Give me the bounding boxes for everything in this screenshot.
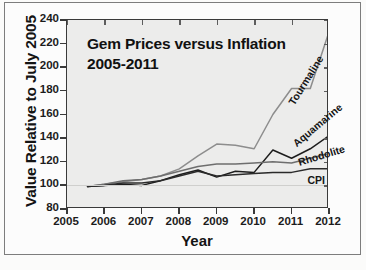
top-inner-tick xyxy=(67,20,68,25)
chart-title: Gem Prices versus Inflation 2005-2011 xyxy=(87,34,286,74)
top-inner-tick xyxy=(292,20,293,25)
top-inner-tick xyxy=(142,20,143,25)
chart-title-line1: Gem Prices versus Inflation xyxy=(87,34,286,54)
y-tick-label: 100 xyxy=(29,177,59,189)
right-inner-tick xyxy=(324,67,327,68)
y-tick-label: 120 xyxy=(29,154,59,166)
x-tick-mark xyxy=(103,208,105,214)
reference-line-100 xyxy=(67,185,327,186)
y-tick-label: 240 xyxy=(29,12,59,24)
x-tick-mark xyxy=(141,208,143,214)
top-inner-tick xyxy=(254,20,255,25)
x-tick-mark xyxy=(216,208,218,214)
chart-title-line2: 2005-2011 xyxy=(87,54,286,74)
x-tick-label: 2010 xyxy=(233,215,273,227)
right-inner-tick xyxy=(324,44,327,45)
x-tick-mark xyxy=(66,208,68,214)
y-tick-label: 200 xyxy=(29,59,59,71)
right-inner-tick xyxy=(324,162,327,163)
x-tick-label: 2009 xyxy=(196,215,236,227)
top-inner-tick xyxy=(104,20,105,25)
x-axis-title: Year xyxy=(66,232,328,249)
series-label-cpi: CPI xyxy=(307,174,325,186)
top-inner-tick xyxy=(179,20,180,25)
x-tick-label: 2006 xyxy=(83,215,123,227)
right-inner-tick xyxy=(324,138,327,139)
top-inner-tick xyxy=(217,20,218,25)
x-tick-mark xyxy=(178,208,180,214)
x-tick-label: 2008 xyxy=(158,215,198,227)
y-tick-label: 160 xyxy=(29,107,59,119)
plot-area: Gem Prices versus Inflation 2005-2011 xyxy=(66,19,328,208)
x-tick-mark xyxy=(291,208,293,214)
right-inner-tick xyxy=(324,91,327,92)
figure-page: Value Relative to July 2005 Year 8010012… xyxy=(0,0,366,270)
x-tick-label: 2011 xyxy=(271,215,311,227)
y-tick-label: 180 xyxy=(29,83,59,95)
series-line-aquamarine xyxy=(88,136,327,187)
y-tick-label: 80 xyxy=(29,201,59,213)
right-inner-tick xyxy=(324,20,327,21)
x-tick-label: 2012 xyxy=(308,215,348,227)
x-tick-label: 2007 xyxy=(121,215,161,227)
y-tick-label: 140 xyxy=(29,130,59,142)
plot-inner: Gem Prices versus Inflation 2005-2011 xyxy=(67,20,327,207)
x-tick-mark xyxy=(253,208,255,214)
x-tick-label: 2005 xyxy=(46,215,86,227)
x-tick-mark xyxy=(328,208,330,214)
y-tick-label: 220 xyxy=(29,36,59,48)
